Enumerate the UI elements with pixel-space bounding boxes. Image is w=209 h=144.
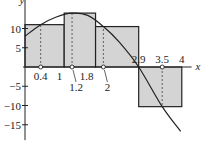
x-tick-label: 1.8 (80, 70, 94, 82)
x-axis-label: x (195, 60, 201, 72)
y-tick-label: −10 (4, 100, 22, 112)
y-tick-label: 10 (10, 23, 22, 35)
x-tick-label: 0.4 (34, 70, 48, 82)
x-tick-label: 2.9 (132, 53, 146, 65)
x-tick-label: 4 (179, 53, 185, 65)
y-tick-label: −5 (9, 80, 21, 92)
riemann-rectangle-2 (64, 13, 95, 67)
x-tick-label: 1 (57, 70, 63, 82)
sample-point-marker (70, 65, 74, 69)
y-tick-label: −15 (4, 119, 22, 131)
riemann-sum-chart: 105−5−10−152.93.540.411.21.82xy (0, 0, 209, 144)
riemann-rectangle-4 (139, 67, 182, 107)
y-axis-label: y (19, 0, 25, 6)
sample-point-marker (39, 65, 43, 69)
x-tick-label: 2 (105, 81, 111, 93)
x-tick-label: 1.2 (69, 81, 83, 93)
sample-point-marker (101, 65, 105, 69)
sample-point-marker (160, 65, 164, 69)
x-tick-label: 3.5 (155, 53, 169, 65)
y-tick-label: 5 (16, 42, 22, 54)
